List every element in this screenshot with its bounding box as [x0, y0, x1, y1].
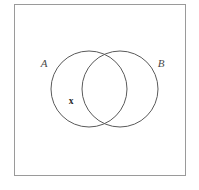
element-x-label: x	[69, 96, 74, 106]
venn-diagram-figure: A B x	[0, 0, 199, 190]
set-a-circle	[51, 51, 127, 127]
set-b-circle	[82, 51, 158, 127]
set-a-label: A	[40, 57, 48, 69]
venn-diagram-canvas: A B x	[0, 0, 199, 190]
set-b-label: B	[158, 57, 165, 69]
universal-set-rectangle	[15, 5, 186, 176]
